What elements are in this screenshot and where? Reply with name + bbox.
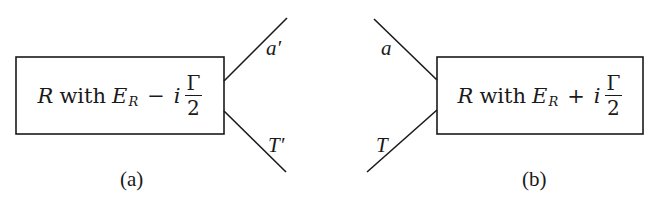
fraction-denominator: 2 — [187, 96, 200, 118]
resonance-label-b: R with E R + i Γ 2 — [437, 57, 643, 134]
energy-symbol: E — [112, 84, 127, 108]
fraction-denominator: 2 — [607, 96, 620, 118]
imaginary-unit: i — [174, 84, 181, 108]
label-a: a — [381, 36, 392, 61]
minus-operator: − — [147, 84, 165, 108]
energy-subscript: R — [128, 94, 138, 109]
caption-b: (b) — [522, 167, 547, 192]
caption-a: (a) — [120, 167, 143, 192]
imaginary-unit: i — [594, 84, 601, 108]
resonance-symbol: R — [458, 84, 474, 108]
resonance-diagram-figure: R with E R − i Γ 2 R with E R + i Γ 2 a′… — [0, 0, 653, 200]
gamma-over-two-fraction: Γ 2 — [185, 73, 203, 118]
gamma-over-two-fraction: Γ 2 — [605, 73, 623, 118]
fraction-numerator: Γ — [605, 73, 623, 96]
with-word: with — [479, 84, 526, 108]
label-t-prime: T′ — [268, 133, 284, 158]
energy-symbol: E — [532, 84, 547, 108]
resonance-label-a: R with E R − i Γ 2 — [16, 57, 224, 134]
with-word: with — [59, 84, 106, 108]
fraction-numerator: Γ — [185, 73, 203, 96]
plus-operator: + — [567, 84, 585, 108]
label-t: T — [376, 133, 388, 158]
resonance-symbol: R — [38, 84, 54, 108]
label-a-prime: a′ — [266, 36, 281, 61]
energy-subscript: R — [548, 94, 558, 109]
